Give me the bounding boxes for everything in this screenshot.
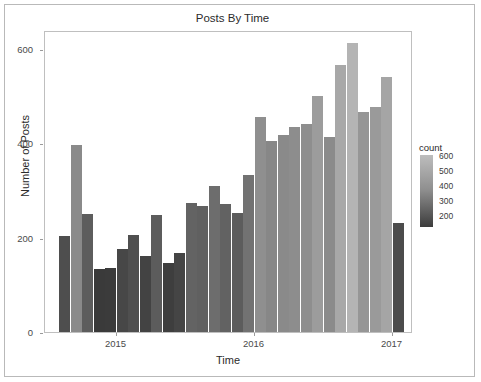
chart-screenshot: Posts By Time 0200400600 Number of Posts… bbox=[0, 0, 481, 382]
bar bbox=[381, 77, 392, 332]
bar bbox=[301, 124, 312, 332]
x-tick-label: 2017 bbox=[372, 338, 412, 349]
y-tick-label: 600 bbox=[0, 45, 33, 55]
bar bbox=[117, 249, 128, 332]
y-tick-mark bbox=[40, 239, 43, 240]
bar bbox=[347, 43, 358, 332]
bar bbox=[220, 204, 231, 332]
bar bbox=[197, 206, 208, 332]
legend: count 600500400300200 bbox=[419, 142, 477, 227]
x-tick-label: 2016 bbox=[234, 338, 274, 349]
legend-tick-label: 500 bbox=[439, 167, 453, 176]
legend-tick-label: 300 bbox=[439, 197, 453, 206]
bar-series bbox=[45, 32, 411, 332]
bar bbox=[71, 145, 82, 332]
bar bbox=[232, 213, 243, 332]
bar bbox=[128, 235, 139, 332]
bar bbox=[278, 135, 289, 332]
legend-tick-mark bbox=[433, 157, 437, 158]
x-axis-title: Time bbox=[44, 354, 412, 366]
bar bbox=[266, 141, 277, 332]
bar bbox=[358, 112, 369, 332]
bar bbox=[105, 268, 116, 332]
bar bbox=[255, 117, 266, 332]
chart-title: Posts By Time bbox=[60, 10, 405, 26]
bar bbox=[243, 175, 254, 332]
bar bbox=[140, 256, 151, 332]
x-tick-label: 2015 bbox=[96, 338, 136, 349]
legend-tick-mark bbox=[433, 217, 437, 218]
legend-ticks: 600500400300200 bbox=[433, 155, 477, 227]
legend-tick-label: 400 bbox=[439, 182, 453, 191]
x-tick-mark bbox=[392, 333, 393, 336]
legend-tick-label: 600 bbox=[439, 152, 453, 161]
y-tick-mark bbox=[40, 144, 43, 145]
bar bbox=[312, 96, 323, 332]
y-tick-mark bbox=[40, 333, 43, 334]
bar bbox=[324, 137, 335, 332]
y-tick-mark bbox=[40, 50, 43, 51]
legend-tick-label: 200 bbox=[439, 212, 453, 221]
bar bbox=[370, 107, 381, 332]
x-tick-mark bbox=[116, 333, 117, 336]
legend-colorbar bbox=[420, 155, 433, 227]
bar bbox=[59, 236, 70, 332]
legend-tick-mark bbox=[433, 202, 437, 203]
bar bbox=[174, 253, 185, 332]
bar bbox=[289, 127, 300, 332]
bar bbox=[393, 223, 404, 332]
bar bbox=[335, 65, 346, 332]
plot-panel bbox=[44, 31, 412, 333]
legend-tick-mark bbox=[433, 187, 437, 188]
bar bbox=[94, 269, 105, 332]
x-tick-mark bbox=[254, 333, 255, 336]
bar bbox=[151, 215, 162, 332]
bar bbox=[82, 214, 93, 332]
legend-tick-mark bbox=[433, 172, 437, 173]
panel-inner bbox=[45, 32, 411, 332]
y-tick-label: 0 bbox=[0, 328, 33, 338]
bar bbox=[163, 263, 174, 332]
bar bbox=[186, 203, 197, 332]
y-axis-title: Number of Posts bbox=[19, 76, 31, 236]
legend-body: 600500400300200 bbox=[419, 155, 477, 227]
bar bbox=[209, 186, 220, 332]
